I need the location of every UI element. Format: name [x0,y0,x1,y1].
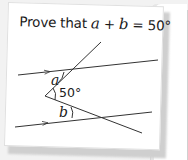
angle-diagram: a 50° b [0,0,188,160]
angle-b-arc [71,107,73,118]
lower-parallel-line [15,112,152,127]
page: Prove that a + b = 50° a 50° b [0,0,188,160]
label-b: b [59,104,68,120]
label-50-degrees: 50° [59,85,81,100]
upper-parallel-line [18,60,158,75]
angle-50-arc [53,88,56,100]
